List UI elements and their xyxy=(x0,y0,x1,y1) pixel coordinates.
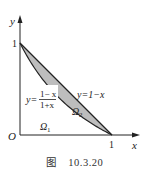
figure: y x O 1 1 y=1−x y= 1− x 1+x Ω 1 Ω 2 xyxy=(0,0,149,175)
line-equation-label: y=1−x xyxy=(76,89,105,100)
x-tick-label: 1 xyxy=(109,139,114,150)
x-axis-label: x xyxy=(131,139,137,151)
y-axis-label: y xyxy=(9,15,15,27)
y-axis-arrow-icon xyxy=(18,15,23,23)
y-tick-label: 1 xyxy=(12,38,17,49)
figure-caption: 图10.3.20 xyxy=(0,154,149,169)
x-axis-arrow-icon xyxy=(132,133,140,138)
region-label-omega1: Ω 1 xyxy=(40,121,51,134)
curve-equation-lhs: y= xyxy=(25,94,37,105)
caption-prefix: 图 xyxy=(46,157,57,168)
caption-number: 10.3.20 xyxy=(68,157,103,168)
svg-text:1: 1 xyxy=(47,126,51,134)
origin-label: O xyxy=(8,130,16,142)
curve-equation-denominator: 1+x xyxy=(40,100,55,110)
curve-equation-numerator: 1− x xyxy=(40,89,57,99)
svg-text:2: 2 xyxy=(79,111,83,119)
